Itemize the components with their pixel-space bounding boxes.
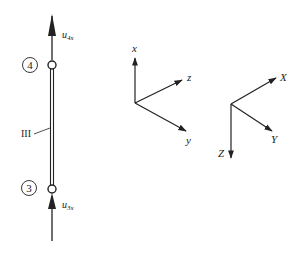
member-label: III [21, 128, 31, 139]
local-y-label: y [185, 134, 191, 146]
member-iii: u4x 4 III 3 u3x [21, 14, 75, 241]
node-4-joint [48, 61, 56, 69]
global-x-axis [231, 78, 276, 104]
local-y-axis [135, 103, 186, 131]
node-4-label: 4 [27, 59, 33, 71]
force-label-u4x: u4x [62, 29, 75, 42]
global-axes: X Y Z [218, 71, 288, 159]
bar-element [51, 69, 54, 185]
global-y-label: Y [271, 133, 279, 145]
member-label-leader [34, 128, 50, 134]
global-z-label: Z [218, 147, 225, 159]
diagram-canvas: u4x 4 III 3 u3x x z y [0, 0, 306, 257]
local-z-label: z [186, 71, 192, 83]
arrowhead-up-icon [48, 14, 56, 36]
local-x-label: x [131, 42, 137, 54]
local-axes: x z y [131, 42, 192, 146]
local-z-axis [135, 80, 182, 103]
node-3-joint [48, 185, 56, 193]
global-x-label: X [279, 71, 288, 83]
arrowhead-up-icon [48, 193, 56, 209]
global-y-axis [231, 104, 272, 131]
force-arrow-u3x [48, 193, 56, 241]
force-arrow-u4x [48, 14, 56, 60]
node-3-label: 3 [26, 182, 32, 194]
force-label-u3x: u3x [62, 199, 75, 212]
